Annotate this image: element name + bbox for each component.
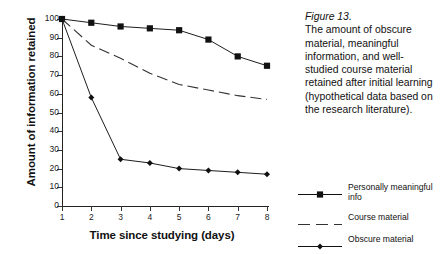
chart-panel: Amount of information retained Time sinc…: [0, 0, 278, 254]
legend-item[interactable]: Personally meaningful info: [298, 182, 441, 203]
y-tick-label: 30: [50, 144, 59, 154]
y-tick-label: 50: [50, 107, 59, 117]
x-tick-mark: [150, 206, 151, 211]
y-tick-label: 90: [50, 32, 59, 42]
figure-caption-text: The amount of obscure material, meaningf…: [305, 23, 437, 116]
y-tick-label: 40: [50, 125, 59, 135]
y-tick-label: 60: [50, 88, 59, 98]
x-tick-label: 5: [171, 212, 187, 222]
figure-13-root: Amount of information retained Time sinc…: [0, 0, 441, 254]
x-tick-label: 8: [259, 212, 275, 222]
x-tick-label: 2: [83, 212, 99, 222]
y-tick-label: 10: [50, 181, 59, 191]
y-tick-label: 80: [50, 50, 59, 60]
chart-legend: Personally meaningful infoCourse materia…: [298, 182, 441, 254]
y-axis-title: Amount of information retained: [25, 7, 37, 197]
legend-item[interactable]: Course material: [298, 212, 441, 225]
y-tick-label: 100: [45, 13, 59, 23]
x-tick-mark: [238, 206, 239, 211]
x-axis-title: Time since studying (days): [46, 229, 278, 241]
legend-key-square-icon: [298, 185, 342, 194]
legend-label: Obscure material: [348, 234, 441, 244]
x-tick-mark: [208, 206, 209, 211]
x-tick-label: 4: [142, 212, 158, 222]
data-point-diamond: [317, 243, 323, 249]
legend-item[interactable]: Obscure material: [298, 234, 441, 247]
legend-key-diamond-icon: [298, 237, 342, 246]
figure-caption: Figure 13. The amount of obscure materia…: [305, 10, 437, 116]
x-tick-mark: [62, 206, 63, 211]
data-point-square: [317, 191, 323, 197]
x-tick-label: 6: [200, 212, 216, 222]
y-tick-label: 70: [50, 69, 59, 79]
x-tick-mark: [179, 206, 180, 211]
y-tick-label: 20: [50, 163, 59, 173]
x-tick-label: 7: [230, 212, 246, 222]
x-tick-label: 1: [54, 212, 70, 222]
x-tick-label: 3: [113, 212, 129, 222]
legend-label: Personally meaningful info: [348, 182, 441, 203]
y-tick-label: 0: [54, 200, 59, 210]
x-tick-mark: [267, 206, 268, 211]
x-tick-mark: [121, 206, 122, 211]
x-tick-mark: [91, 206, 92, 211]
figure-number: Figure 13.: [305, 10, 437, 23]
legend-key-none-icon: [298, 215, 342, 224]
legend-label: Course material: [348, 212, 441, 222]
y-axis-line: [62, 17, 63, 208]
